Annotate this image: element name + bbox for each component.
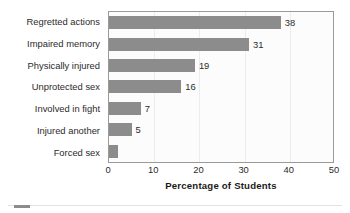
bar-row: 7 [109,102,333,115]
category-label: Unprotected sex [32,81,104,92]
bar [109,59,195,72]
bar-series: 3831191675 [109,12,333,162]
bar-row: 16 [109,80,333,93]
category-label: Physically injured [28,60,104,71]
x-tick-label: 10 [148,164,158,175]
bar [109,16,281,29]
category-label: Impaired memory [27,38,104,49]
bar [109,145,118,158]
bar-value-label: 16 [185,81,195,92]
category-axis-labels: Regretted actionsImpaired memoryPhysical… [0,11,104,163]
bar-row: 5 [109,123,333,136]
bar-value-label: 31 [253,39,263,50]
bar [109,102,141,115]
bar [109,123,132,136]
footer-divider [8,205,342,206]
plot-area: 3831191675 [108,11,334,163]
x-axis-tick-labels: 01020304050 [108,164,334,176]
bar-value-label: 38 [285,17,295,28]
bar-value-label: 7 [145,103,150,114]
bar-row: 38 [109,16,333,29]
bar [109,80,181,93]
category-label: Forced sex [54,147,104,158]
category-label: Regretted actions [27,16,104,27]
legend-swatch-artifact [14,205,30,208]
x-tick-label: 50 [329,164,339,175]
category-label: Involved in fight [35,103,104,114]
bar-row: 19 [109,59,333,72]
bar [109,38,249,51]
x-tick-label: 30 [238,164,248,175]
x-tick-label: 0 [105,164,110,175]
bar-chart-figure: Regretted actionsImpaired memoryPhysical… [0,0,350,213]
category-label: Injured another [37,125,104,136]
bar-row: 31 [109,38,333,51]
x-tick-label: 40 [284,164,294,175]
bar-value-label: 19 [199,60,209,71]
x-tick-label: 20 [193,164,203,175]
bar-row [109,145,333,158]
bar-value-label: 5 [136,124,141,135]
x-axis-title: Percentage of Students [108,180,334,191]
